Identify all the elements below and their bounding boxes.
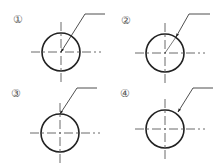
panel-2: ② — [121, 14, 210, 83]
option-label: ④ — [120, 87, 130, 100]
panel-1: ① — [13, 13, 105, 82]
option-label: ② — [121, 14, 131, 27]
diagram-canvas: ①②③④ — [0, 0, 223, 168]
leader-arrow-line — [176, 14, 189, 37]
leader-arrow-line — [60, 88, 77, 114]
leader-arrow-line — [178, 88, 193, 112]
option-label: ① — [13, 13, 23, 26]
option-label: ③ — [11, 87, 21, 100]
leader-extension-line — [165, 37, 176, 53]
panel-4: ④ — [120, 87, 213, 159]
panel-3: ③ — [11, 87, 100, 163]
